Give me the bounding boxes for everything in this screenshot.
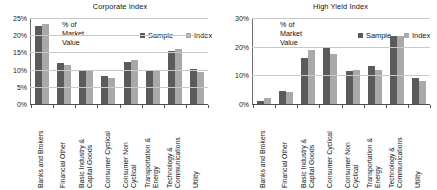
bar-group xyxy=(142,18,164,104)
bar-sample xyxy=(279,91,286,104)
bar-index xyxy=(330,54,337,104)
bar-groups xyxy=(253,18,430,104)
chart-title: High Yield Index xyxy=(218,2,437,11)
bar-group xyxy=(386,18,408,104)
grid-line xyxy=(30,18,208,19)
y-axis-tick-label: 0% xyxy=(239,101,249,108)
bar-group xyxy=(297,18,319,104)
y-axis-tick-label: 10% xyxy=(13,66,27,73)
category-label: Banks and Brokers xyxy=(252,108,274,188)
bar-group xyxy=(75,18,97,104)
bar-group xyxy=(408,18,430,104)
plot-area: 0%5%10%15%20%25% xyxy=(30,18,208,105)
bar-sample xyxy=(257,101,264,104)
bar-index xyxy=(175,49,182,104)
bar-group xyxy=(31,18,53,104)
bar-index xyxy=(64,65,71,104)
category-label: Basic Industry & Capital Goods xyxy=(74,108,96,188)
plot-area: 0%10%20%30% xyxy=(252,18,430,105)
grid-line xyxy=(252,47,430,48)
bar-group xyxy=(342,18,364,104)
category-label: Consumer Non Cyclical xyxy=(341,108,363,188)
category-label: Consumer Cyclical xyxy=(96,108,118,188)
bar-sample xyxy=(35,26,42,104)
grid-line xyxy=(252,18,430,19)
bar-groups xyxy=(31,18,208,104)
bar-sample xyxy=(368,66,375,104)
chart-panel-corporate-index: Corporate Index % of Market Value Sample… xyxy=(0,0,218,190)
grid-line xyxy=(30,35,208,36)
figure-container: Corporate Index % of Market Value Sample… xyxy=(0,0,437,190)
y-axis-tick-label: 5% xyxy=(17,83,27,90)
y-axis-tick-label: 15% xyxy=(13,49,27,56)
category-label: Financial Other xyxy=(52,108,74,188)
bar-group xyxy=(364,18,386,104)
bar-index xyxy=(131,60,138,104)
grid-line xyxy=(30,52,208,53)
category-label: Utility xyxy=(185,108,207,188)
grid-line xyxy=(252,75,430,76)
bar-index xyxy=(419,81,426,105)
bar-sample xyxy=(412,78,419,104)
category-label: Utility xyxy=(407,108,429,188)
category-labels: Banks and BrokersFinancial OtherBasic In… xyxy=(252,108,430,188)
category-label: Basic Industry & Capital Goods xyxy=(296,108,318,188)
bar-group xyxy=(53,18,75,104)
bar-group xyxy=(186,18,208,104)
y-axis-tick-label: 25% xyxy=(13,15,27,22)
y-axis-tick-label: 20% xyxy=(13,32,27,39)
x-axis-tick xyxy=(208,105,209,108)
bar-index xyxy=(286,92,293,104)
category-label: Technology & Communications xyxy=(163,108,185,188)
bar-group xyxy=(164,18,186,104)
bar-group xyxy=(319,18,341,104)
bar-index xyxy=(264,98,271,104)
y-axis-tick-label: 10% xyxy=(235,72,249,79)
chart-title: Corporate Index xyxy=(0,2,218,11)
bar-group xyxy=(120,18,142,104)
bar-sample xyxy=(124,62,131,104)
y-axis-tick-label: 30% xyxy=(235,15,249,22)
bar-index xyxy=(308,50,315,104)
y-axis-tick-label: 20% xyxy=(235,43,249,50)
bar-index xyxy=(197,72,204,104)
category-label: Banks and Brokers xyxy=(30,108,52,188)
bar-group xyxy=(97,18,119,104)
category-label: Transportation & Energy xyxy=(363,108,385,188)
category-labels: Banks and BrokersFinancial OtherBasic In… xyxy=(30,108,208,188)
category-label: Transportation & Energy xyxy=(141,108,163,188)
bar-group xyxy=(275,18,297,104)
bar-group xyxy=(253,18,275,104)
category-label: Consumer Non Cyclical xyxy=(119,108,141,188)
chart-panel-high-yield-index: High Yield Index % of Market Value Sampl… xyxy=(218,0,437,190)
category-label: Technology & Communications xyxy=(385,108,407,188)
grid-line xyxy=(30,87,208,88)
bar-sample xyxy=(301,58,308,104)
grid-line xyxy=(30,70,208,71)
y-axis-tick-label: 0% xyxy=(17,101,27,108)
bar-sample xyxy=(168,51,175,104)
category-label: Financial Other xyxy=(274,108,296,188)
bar-index xyxy=(108,78,115,104)
category-label: Consumer Cyclical xyxy=(318,108,340,188)
bar-sample xyxy=(101,76,108,104)
x-axis-tick xyxy=(430,105,431,108)
